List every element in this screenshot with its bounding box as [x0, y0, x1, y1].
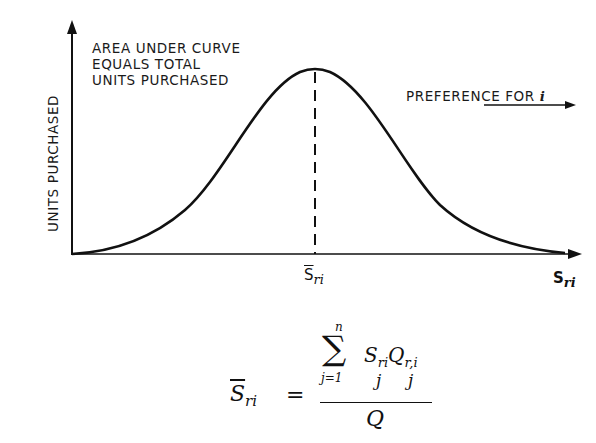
mean-tick-label: Sri	[304, 266, 324, 287]
preference-text: PREFERENCE FOR	[406, 88, 535, 104]
x-axis-label-base: S	[553, 269, 564, 287]
sum-symbol: ∑	[322, 328, 346, 368]
x-axis-label-sub: ri	[564, 275, 576, 290]
preference-var: i	[540, 88, 546, 104]
x-axis-arrow-icon	[568, 249, 582, 259]
equals-sign: =	[286, 382, 304, 407]
preference-arrow-icon	[565, 101, 576, 109]
y-axis-label: UNITS PURCHASED	[45, 95, 61, 232]
denominator: Q	[366, 406, 384, 431]
numerator-s: S	[364, 343, 378, 367]
numerator-s-sub: ri	[378, 355, 388, 370]
lhs-base: S	[230, 381, 245, 406]
area-annotation: AREA UNDER CURVE EQUALS TOTAL UNITS PURC…	[92, 40, 241, 88]
annotation-line-1: AREA UNDER CURVE	[92, 40, 241, 56]
numerator: SriQr,i	[364, 343, 418, 370]
mean-formula: Sri = n ∑ j=1 SriQr,i j j Q	[228, 322, 488, 437]
preference-label: PREFERENCE FOR i	[406, 88, 545, 104]
mean-tick-base: S	[304, 266, 314, 284]
fraction-bar	[320, 402, 432, 403]
under-j-1: j	[376, 370, 381, 390]
numerator-q: Q	[388, 343, 404, 367]
under-j-2: j	[408, 370, 413, 390]
mean-tick-sub: ri	[314, 272, 324, 287]
annotation-line-2: EQUALS TOTAL	[92, 56, 241, 72]
annotation-line-3: UNITS PURCHASED	[92, 72, 241, 88]
sum-lower: j=1	[321, 371, 342, 385]
x-axis-label: Sri	[553, 269, 576, 290]
lhs-sub: ri	[245, 392, 257, 410]
formula-lhs: Sri	[230, 381, 257, 410]
numerator-q-sub: r,i	[404, 355, 417, 370]
y-axis-arrow-icon	[67, 20, 77, 34]
